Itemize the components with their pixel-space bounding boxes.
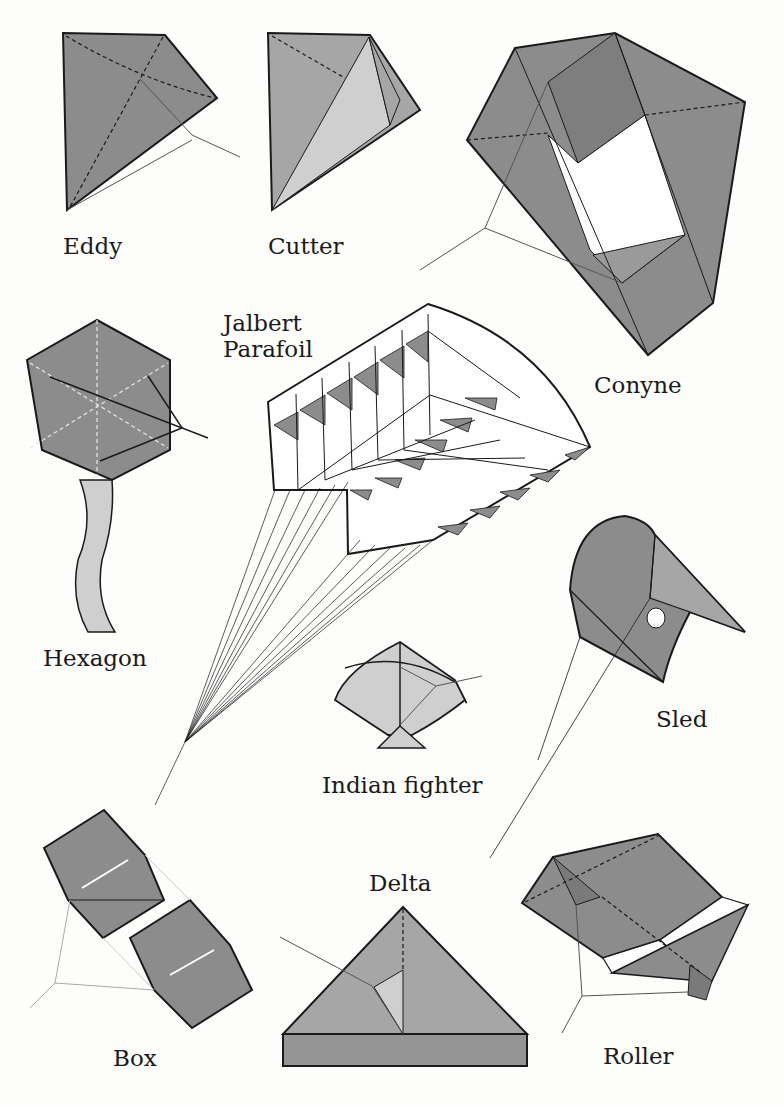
label-box: Box bbox=[113, 1045, 157, 1071]
jalbert-parafoil-kite-drawing bbox=[155, 304, 590, 805]
label-jalbert-parafoil: Jalbert Parafoil bbox=[223, 310, 313, 363]
label-eddy: Eddy bbox=[63, 233, 122, 259]
cutter-kite-drawing bbox=[268, 33, 420, 210]
conyne-kite-drawing bbox=[420, 33, 745, 355]
label-roller: Roller bbox=[603, 1043, 673, 1069]
diagram-canvas bbox=[0, 0, 784, 1105]
label-hexagon: Hexagon bbox=[43, 645, 147, 671]
indian-fighter-kite-drawing bbox=[335, 642, 482, 748]
kite-types-diagram: Eddy Cutter Conyne Hexagon Jalbert Paraf… bbox=[0, 0, 784, 1105]
eddy-kite-drawing bbox=[63, 33, 240, 210]
delta-kite-drawing bbox=[280, 907, 527, 1066]
hexagon-kite-drawing bbox=[27, 320, 208, 632]
box-kite-drawing bbox=[30, 810, 252, 1028]
roller-kite-drawing bbox=[522, 834, 748, 1033]
label-conyne: Conyne bbox=[594, 372, 682, 398]
label-indian-fighter: Indian fighter bbox=[322, 772, 483, 798]
label-sled: Sled bbox=[656, 706, 707, 732]
label-delta: Delta bbox=[369, 870, 431, 896]
sled-kite-drawing bbox=[490, 516, 745, 858]
label-cutter: Cutter bbox=[268, 233, 344, 259]
